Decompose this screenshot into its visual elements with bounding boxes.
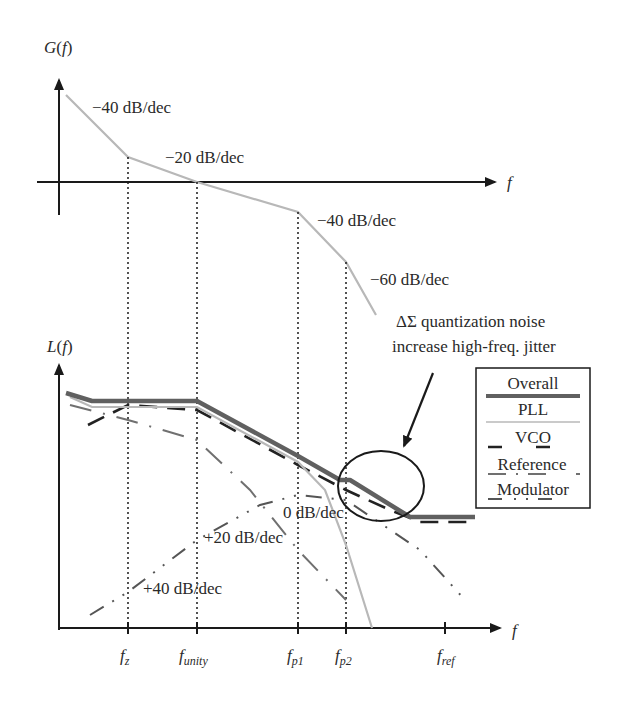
tick-label-fp1: fp1 [287,646,304,668]
legend-item-modulator: Modulator [488,480,580,499]
top-y-axis-label: G(f) [44,38,72,57]
svg-text:Modulator: Modulator [497,480,569,499]
bottom-x-axis-label: f [512,621,519,640]
highlight-ellipse [338,451,424,521]
slope-label-plus20: +20 dB/dec [204,528,283,547]
bottom-y-axis-label: L(f) [46,337,73,356]
annotation-line-1: ΔΣ quantization noise [396,312,545,331]
legend-item-reference: Reference [488,455,580,474]
slope-label-minus60: −60 dB/dec [370,270,449,289]
slope-label-0: 0 dB/dec [283,503,344,522]
tick-label-fz: fz [120,646,130,668]
tick-label-fp2: fp2 [335,646,352,668]
annotation-arrow [404,373,433,446]
slope-label-minus20: −20 dB/dec [165,148,244,167]
tick-label-fref: fref [437,646,456,668]
svg-text:VCO: VCO [515,428,551,447]
top-x-axis-label: f [507,173,514,192]
tick-label-funity: funity [179,646,208,668]
slope-label-minus40-2: −40 dB/dec [317,211,396,230]
svg-text:PLL: PLL [518,400,548,419]
top-plot: G(f) f −40 dB/dec −20 dB/dec −40 dB/dec … [37,38,514,315]
svg-text:Overall: Overall [508,374,559,393]
slope-label-plus40: +40 dB/dec [143,579,222,598]
annotation-line-2: increase high-freq. jitter [392,337,556,356]
slope-label-minus40-1: −40 dB/dec [92,98,171,117]
legend: Overall PLL VCO Reference Modulator [476,368,590,508]
pll-noise-bode-diagram: G(f) f −40 dB/dec −20 dB/dec −40 dB/dec … [0,0,628,706]
svg-text:Reference: Reference [498,455,567,474]
open-loop-gain-curve [66,95,376,315]
